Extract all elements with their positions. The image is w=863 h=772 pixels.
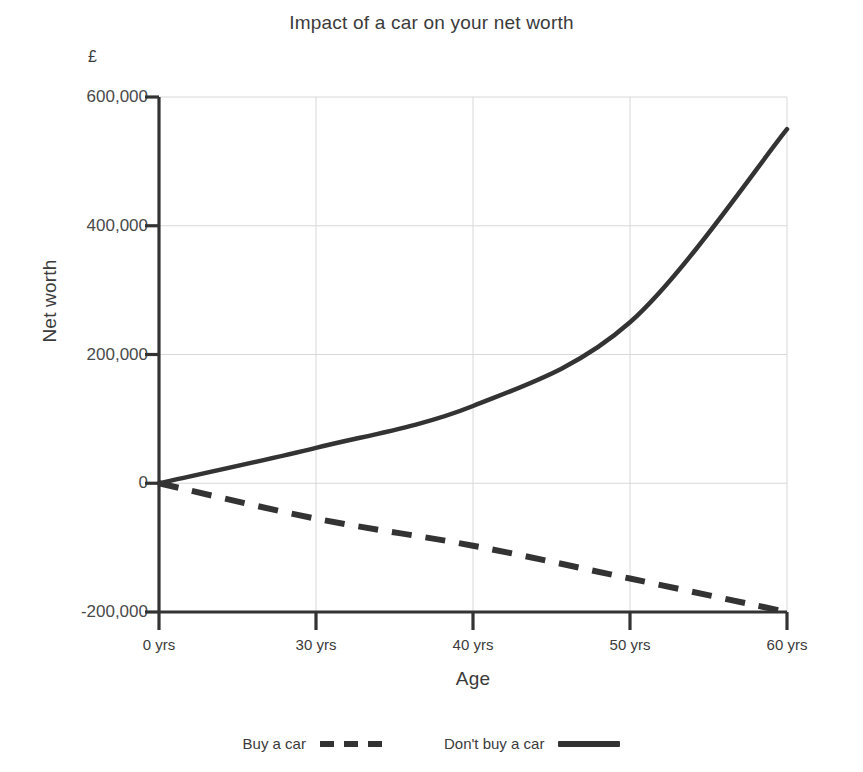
legend-item[interactable]: Buy a car xyxy=(243,735,382,752)
legend-swatch-dashed xyxy=(320,741,382,747)
chart-legend: Buy a carDon't buy a car xyxy=(0,735,863,752)
legend-swatch-solid xyxy=(558,741,620,747)
legend-item[interactable]: Don't buy a car xyxy=(444,735,620,752)
legend-label: Don't buy a car xyxy=(444,735,544,752)
chart-figure: Impact of a car on your net worth £ Net … xyxy=(0,0,863,772)
plot-area xyxy=(0,0,863,772)
legend-label: Buy a car xyxy=(243,735,306,752)
